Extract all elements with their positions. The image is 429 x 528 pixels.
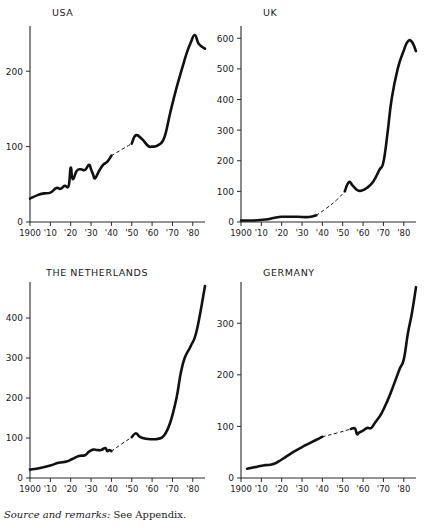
- x-axis-tick-label: '10: [44, 484, 57, 494]
- chart-panel-usa: 01002001900'10'20'30'40'50'60'70'80USA: [0, 0, 215, 252]
- x-axis-tick-label: '40: [105, 484, 118, 494]
- y-axis-tick-label: 100: [217, 187, 234, 197]
- series-line: [30, 448, 111, 470]
- series-line: [132, 35, 205, 147]
- series-line: [132, 286, 205, 439]
- x-axis-tick-label: '50: [336, 228, 349, 238]
- chart-panel-uk: 01002003004005006001900'10'20'30'40'50'6…: [211, 0, 426, 252]
- x-axis-tick-label: '70: [377, 484, 390, 494]
- x-axis-tick-label: 1900: [230, 484, 252, 494]
- y-axis-tick-label: 400: [217, 95, 234, 105]
- series-line: [30, 156, 111, 199]
- x-axis-tick-label: '50: [125, 228, 138, 238]
- x-axis-tick-label: '50: [125, 484, 138, 494]
- x-axis-tick-label: '80: [186, 484, 199, 494]
- y-axis-tick-label: 200: [6, 393, 23, 403]
- caption-rest: See Appendix.: [110, 509, 186, 520]
- series-line-interpolated: [111, 144, 131, 156]
- x-axis-tick-label: 1900: [19, 228, 41, 238]
- x-axis-tick-label: '60: [146, 484, 159, 494]
- chart-title: USA: [52, 7, 73, 18]
- figure-caption: Source and remarks: See Appendix.: [4, 509, 186, 520]
- x-axis-tick-label: '20: [275, 228, 288, 238]
- x-axis-tick-label: '20: [275, 484, 288, 494]
- y-axis-tick-label: 200: [217, 370, 234, 380]
- chart-title: GERMANY: [263, 267, 315, 278]
- x-axis-tick-label: '60: [357, 484, 370, 494]
- x-axis-tick-label: '30: [84, 228, 97, 238]
- y-axis-tick-label: 0: [17, 473, 23, 483]
- x-axis-tick-label: '80: [397, 484, 410, 494]
- series-line-interpolated: [316, 191, 344, 215]
- y-axis-tick-label: 0: [228, 473, 234, 483]
- x-axis-tick-label: '30: [84, 484, 97, 494]
- x-axis-tick-label: '10: [255, 484, 268, 494]
- y-axis-tick-label: 500: [217, 64, 234, 74]
- series-line: [345, 40, 416, 191]
- x-axis-tick-label: '60: [146, 228, 159, 238]
- chart-title: THE NETHERLANDS: [45, 267, 148, 278]
- x-axis-tick-label: 1900: [230, 228, 252, 238]
- chart-svg-usa: 01002001900'10'20'30'40'50'60'70'80USA: [0, 0, 215, 252]
- y-axis-tick-label: 300: [217, 126, 234, 136]
- series-line: [247, 437, 322, 469]
- y-axis-tick-label: 0: [228, 217, 234, 227]
- x-axis-tick-label: '10: [255, 228, 268, 238]
- x-axis-tick-label: '40: [316, 228, 329, 238]
- x-axis-tick-label: '70: [377, 228, 390, 238]
- x-axis-tick-label: '40: [105, 228, 118, 238]
- chart-svg-netherlands: 01002003004001900'10'20'30'40'50'60'70'8…: [0, 256, 215, 508]
- chart-panel-netherlands: 01002003004001900'10'20'30'40'50'60'70'8…: [0, 256, 215, 508]
- x-axis-tick-label: '40: [316, 484, 329, 494]
- chart-panel-germany: 01002003001900'10'20'30'40'50'60'70'80GE…: [211, 256, 426, 508]
- x-axis-tick-label: '30: [295, 228, 308, 238]
- x-axis-tick-label: '60: [357, 228, 370, 238]
- y-axis-tick-label: 0: [17, 217, 23, 227]
- y-axis-tick-label: 100: [217, 422, 234, 432]
- chart-svg-uk: 01002003004005006001900'10'20'30'40'50'6…: [211, 0, 426, 252]
- caption-lead: Source and remarks:: [4, 509, 110, 520]
- x-axis-tick-label: '50: [336, 484, 349, 494]
- x-axis-tick-label: '80: [397, 228, 410, 238]
- y-axis-tick-label: 100: [6, 142, 23, 152]
- y-axis-tick-label: 100: [6, 433, 23, 443]
- x-axis-tick-label: '70: [166, 228, 179, 238]
- y-axis-tick-label: 400: [6, 313, 23, 323]
- series-line: [351, 287, 416, 434]
- x-axis-tick-label: '70: [166, 484, 179, 494]
- x-axis-tick-label: '20: [64, 484, 77, 494]
- y-axis-tick-label: 200: [217, 156, 234, 166]
- chart-axes: [241, 282, 416, 478]
- series-line: [241, 215, 316, 220]
- y-axis-tick-label: 300: [217, 319, 234, 329]
- chart-axes: [30, 26, 205, 222]
- y-axis-tick-label: 600: [217, 34, 234, 44]
- chart-title: UK: [263, 7, 278, 18]
- series-line-interpolated: [322, 429, 350, 437]
- chart-svg-germany: 01002003001900'10'20'30'40'50'60'70'80GE…: [211, 256, 426, 508]
- x-axis-tick-label: '10: [44, 228, 57, 238]
- series-line-interpolated: [111, 437, 131, 451]
- x-axis-tick-label: 1900: [19, 484, 41, 494]
- y-axis-tick-label: 200: [6, 67, 23, 77]
- y-axis-tick-label: 300: [6, 353, 23, 363]
- x-axis-tick-label: '20: [64, 228, 77, 238]
- x-axis-tick-label: '30: [295, 484, 308, 494]
- x-axis-tick-label: '80: [186, 228, 199, 238]
- figure-page: 01002001900'10'20'30'40'50'60'70'80USA 0…: [0, 0, 429, 528]
